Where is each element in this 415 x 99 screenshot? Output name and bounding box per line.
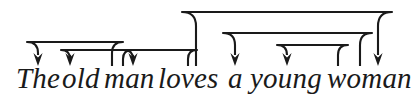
dependency-arrow-diagram: Theoldmanlovesayoungwoman xyxy=(0,0,415,99)
sentence-layer: Theoldmanlovesayoungwoman xyxy=(0,0,415,99)
word-the: The xyxy=(16,64,60,93)
word-man: man xyxy=(104,64,155,93)
word-woman: woman xyxy=(327,64,412,93)
word-loves: loves xyxy=(158,64,219,93)
word-old: old xyxy=(62,64,100,93)
word-young: young xyxy=(250,64,322,93)
word-a: a xyxy=(228,64,243,93)
